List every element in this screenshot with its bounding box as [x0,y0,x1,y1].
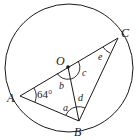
label-angle-b: b [59,80,64,91]
angle-arc-a-vertex [34,88,36,102]
label-angle-a: a [63,102,68,113]
label-angle-c: c [82,67,87,78]
label-o: O [56,54,65,68]
angle-arc-e [103,47,110,53]
diagram-canvas: O A B C 64° b c a d e [0,0,139,140]
label-64-degrees: 64° [37,88,52,100]
label-angle-e: e [98,51,103,62]
label-b: B [74,125,82,139]
angle-arc-d [76,107,85,108]
angle-arc-b [57,73,70,79]
label-angle-d: d [78,92,84,103]
label-a: A [6,91,15,105]
center-point [66,65,70,69]
geometry-diagram: O A B C 64° b c a d e [0,0,139,140]
label-c: C [121,26,130,40]
